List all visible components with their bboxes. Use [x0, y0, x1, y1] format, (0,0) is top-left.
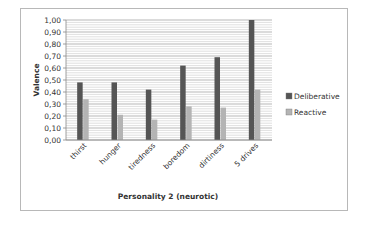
y-tick-label: 0,40	[44, 88, 61, 97]
bar-deliberative-boredom	[180, 66, 186, 140]
legend-label-reactive: Reactive	[294, 108, 327, 117]
y-tick-label: 0,90	[44, 28, 61, 37]
bar-reactive-boredom	[186, 106, 192, 140]
x-axis-title: Personality 2 (neurotic)	[118, 192, 218, 201]
y-tick-label: 0,50	[44, 76, 61, 85]
bar-reactive-5-drives	[255, 90, 260, 140]
legend: DeliberativeReactive	[286, 92, 340, 117]
x-category-label: hunger	[98, 140, 124, 166]
x-category-label: 5 drives	[233, 141, 261, 169]
y-tick-label: 1,00	[44, 16, 61, 25]
y-tick-label: 0,60	[44, 64, 61, 73]
bar-deliberative-tiredness	[146, 90, 152, 140]
x-category-label: tiredness	[126, 141, 157, 172]
bar-reactive-tiredness	[152, 120, 158, 140]
bar-chart: 0,000,100,200,300,400,500,600,700,800,90…	[0, 0, 365, 225]
x-category-label: boredom	[161, 141, 191, 171]
y-tick-label: 0,20	[44, 112, 61, 121]
y-tick-label: 0,00	[44, 136, 61, 145]
bar-deliberative-dirtiness	[215, 57, 221, 140]
bar-reactive-hunger	[118, 115, 124, 140]
bar-deliberative-thirst	[77, 82, 83, 140]
legend-swatch-reactive	[286, 109, 292, 115]
y-axis: 0,000,100,200,300,400,500,600,700,800,90…	[44, 16, 66, 145]
bar-deliberative-hunger	[112, 82, 118, 140]
y-tick-label: 0,80	[44, 40, 61, 49]
y-tick-label: 0,30	[44, 100, 61, 109]
y-axis-title: Valence	[32, 64, 41, 97]
y-tick-label: 0,70	[44, 52, 61, 61]
bar-deliberative-5-drives	[249, 20, 255, 140]
bar-reactive-thirst	[83, 99, 89, 140]
grid-lines	[66, 20, 272, 140]
bar-reactive-dirtiness	[221, 108, 227, 140]
legend-label-deliberative: Deliberative	[294, 92, 340, 101]
x-category-label: thirst	[68, 141, 88, 161]
y-tick-label: 0,10	[44, 124, 61, 133]
x-category-label: dirtiness	[197, 141, 226, 170]
legend-swatch-deliberative	[286, 93, 292, 99]
x-axis: thirsthungertirednessboredomdirtiness5 d…	[66, 140, 272, 172]
